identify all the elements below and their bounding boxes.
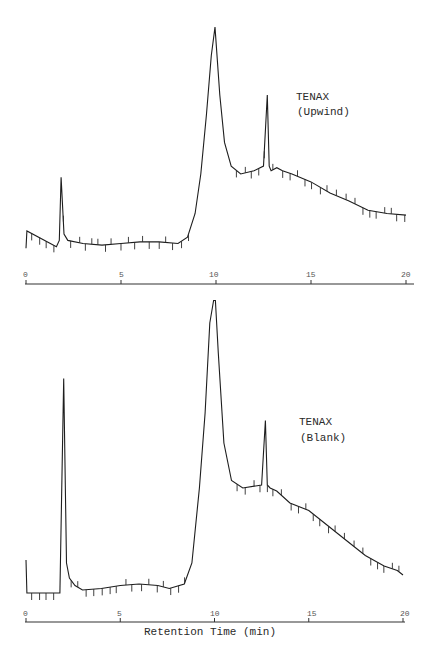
upwind-trace-line xyxy=(26,27,406,248)
upwind-tick-label-20: 20 xyxy=(401,270,411,279)
x-axis-title: Retention Time (min) xyxy=(144,626,276,638)
blank-trace-line xyxy=(26,301,403,594)
blank-x-ticks xyxy=(26,618,403,622)
upwind-tick-label-10: 10 xyxy=(209,270,219,279)
blank-tick-label-10: 10 xyxy=(210,609,220,618)
upwind-x-ticks xyxy=(26,280,406,284)
blank-label-title: TENAX xyxy=(299,416,332,429)
upwind-tick-label-0: 0 xyxy=(23,270,28,279)
upwind-chromatogram xyxy=(25,27,414,284)
upwind-tick-label-5: 5 xyxy=(119,270,124,279)
chromatogram-figure xyxy=(0,0,438,664)
blank-integration-marks xyxy=(32,480,399,600)
upwind-tick-label-15: 15 xyxy=(306,270,316,279)
blank-tick-label-20: 20 xyxy=(400,609,410,618)
upwind-integration-marks xyxy=(32,151,405,252)
blank-tick-label-0: 0 xyxy=(23,609,28,618)
blank-label-subtitle: (Blank) xyxy=(300,432,346,445)
blank-chromatogram xyxy=(25,301,405,623)
blank-tick-label-5: 5 xyxy=(117,609,122,618)
upwind-label-subtitle: (Upwind) xyxy=(297,106,350,119)
upwind-label-title: TENAX xyxy=(296,91,329,104)
blank-tick-label-15: 15 xyxy=(307,609,317,618)
